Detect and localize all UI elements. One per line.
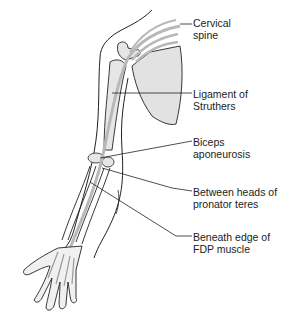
label-line: aponeurosis <box>193 148 250 160</box>
label-line: FDP muscle <box>193 243 270 255</box>
label-line: Biceps <box>193 136 250 148</box>
label-ligament-of-struthers: Ligament of Struthers <box>193 88 248 112</box>
label-line: Cervical <box>193 17 231 29</box>
hand <box>23 246 82 310</box>
label-biceps-aponeurosis: Biceps aponeurosis <box>193 136 250 160</box>
label-fdp-muscle: Beneath edge of FDP muscle <box>193 231 270 255</box>
label-line: Between heads of <box>193 186 277 198</box>
label-line: pronator teres <box>193 198 277 210</box>
label-line: Beneath edge of <box>193 231 270 243</box>
leader-biceps <box>100 141 192 158</box>
label-pronator-teres: Between heads of pronator teres <box>193 186 277 210</box>
arm-illustration <box>0 0 295 318</box>
leader-fdp <box>90 182 192 236</box>
label-cervical-spine: Cervical spine <box>193 17 231 41</box>
leader-pronator <box>102 168 192 191</box>
label-line: spine <box>193 29 231 41</box>
label-line: Ligament of <box>193 88 248 100</box>
label-line: Struthers <box>193 100 248 112</box>
anatomy-diagram: Cervical spine Ligament of Struthers Bic… <box>0 0 295 318</box>
